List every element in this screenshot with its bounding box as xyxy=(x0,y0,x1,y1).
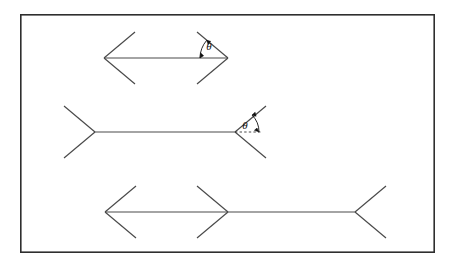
top-theta-label: θ xyxy=(206,40,212,52)
figure-frame xyxy=(21,15,434,252)
middle-theta-label: θ xyxy=(242,119,248,131)
muller-lyer-figure-panel: ============ --> θ xyxy=(0,0,455,267)
muller-lyer-diagram: ============ --> θ xyxy=(0,0,455,267)
